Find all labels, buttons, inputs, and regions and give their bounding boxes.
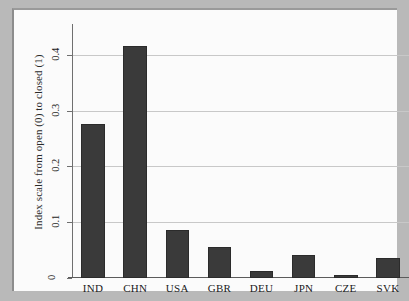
- x-axis-tick-label-ind: IND: [72, 282, 114, 294]
- bar-chn[interactable]: [123, 46, 147, 278]
- bar-slot: [376, 24, 400, 278]
- y-axis-tickmark: [67, 55, 72, 56]
- x-axis-tick-label-cze: CZE: [325, 282, 367, 294]
- x-axis-tick-label-svk: SVK: [367, 282, 409, 294]
- y-axis-tick-label: 0.1: [51, 215, 62, 228]
- y-axis-tickmark: [67, 166, 72, 167]
- bar-svk[interactable]: [376, 258, 400, 278]
- bar-slot: [81, 24, 105, 278]
- x-axis-tick-label-jpn: JPN: [283, 282, 325, 294]
- x-axis-tick-label-deu: DEU: [241, 282, 283, 294]
- y-axis-title: Index scale from open (0) to closed (1): [30, 22, 46, 262]
- y-axis-tick-label: 0: [47, 275, 58, 280]
- bar-deu[interactable]: [250, 271, 274, 278]
- x-axis-tick-label-usa: USA: [156, 282, 198, 294]
- bar-slot: [208, 24, 232, 278]
- bar-slot: [166, 24, 190, 278]
- bar-jpn[interactable]: [292, 255, 316, 278]
- bar-slot: [292, 24, 316, 278]
- bar-series: [72, 24, 409, 278]
- bar-slot: [123, 24, 147, 278]
- y-axis-tick-label: 0.2: [51, 159, 62, 172]
- x-axis-tick-labels: INDCHNUSAGBRDEUJPNCZESVK: [72, 282, 409, 301]
- x-axis-tick-label-gbr: GBR: [198, 282, 240, 294]
- bar-slot: [334, 24, 358, 278]
- plot-area: [72, 24, 409, 278]
- y-axis-tickmark: [67, 222, 72, 223]
- bar-usa[interactable]: [166, 230, 190, 278]
- bar-cze[interactable]: [334, 275, 358, 278]
- y-axis-tick-label: 0.3: [51, 103, 62, 116]
- figure-frame: Index scale from open (0) to closed (1) …: [0, 0, 409, 301]
- y-axis-tickmark: [67, 278, 72, 279]
- bar-gbr[interactable]: [208, 247, 232, 278]
- chart-canvas: Index scale from open (0) to closed (1) …: [12, 8, 397, 291]
- bar-slot: [250, 24, 274, 278]
- bar-ind[interactable]: [81, 124, 105, 278]
- y-axis-tick-label: 0.4: [51, 47, 62, 60]
- x-axis-tick-label-chn: CHN: [114, 282, 156, 294]
- y-axis-tickmark: [67, 111, 72, 112]
